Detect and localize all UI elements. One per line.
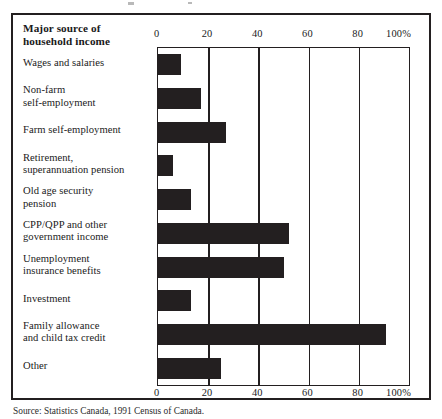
bar [158, 324, 386, 345]
x-tick-top-20: 20 [202, 28, 213, 39]
category-label-line: and child tax credit [23, 332, 157, 344]
scan-artifact-left [128, 2, 134, 5]
x-tick-bottom-80: 80 [352, 387, 363, 398]
category-label-line: Farm self-employment [23, 124, 157, 136]
figure-container: Major source of household income Wages a… [0, 0, 442, 419]
category-label-line: Old age security [23, 185, 157, 197]
category-label: Investment [23, 293, 157, 305]
x-tick-bottom-40: 40 [252, 387, 263, 398]
x-tick-bottom-60: 60 [302, 387, 313, 398]
category-label: Other [23, 360, 157, 372]
category-label-line: CPP/QPP and other [23, 219, 157, 231]
category-column-header-line-2: household income [23, 35, 153, 48]
category-label: Farm self-employment [23, 124, 157, 136]
x-tick-bottom-0: 0 [154, 387, 159, 398]
category-label-line: pension [23, 198, 157, 210]
bar [158, 54, 181, 75]
category-label-line: superannuation pension [23, 164, 157, 176]
category-label-line: Non-farm [23, 84, 157, 96]
category-label: Retirement,superannuation pension [23, 152, 157, 177]
category-label-line: Other [23, 360, 157, 372]
bar [158, 358, 221, 379]
scan-artifact-right [188, 2, 192, 4]
x-tick-top-60: 60 [302, 28, 313, 39]
bar [158, 189, 191, 210]
bar [158, 88, 201, 109]
x-tick-top-40: 40 [252, 28, 263, 39]
category-column-header-line-1: Major source of [23, 22, 153, 35]
source-note: Source: Statistics Canada, 1991 Census o… [13, 406, 204, 419]
category-label-line: insurance benefits [23, 265, 157, 277]
category-label-line: government income [23, 231, 157, 243]
category-label-line: Unemployment [23, 253, 157, 265]
category-label: Old age securitypension [23, 185, 157, 210]
category-label-line: self-employment [23, 97, 157, 109]
bar [158, 223, 289, 244]
bar [158, 290, 191, 311]
bar [158, 257, 284, 278]
x-tick-bottom-100pct: 100% [386, 387, 411, 398]
plot-area [157, 47, 410, 386]
category-label: CPP/QPP and othergovernment income [23, 219, 157, 244]
x-tick-top-0: 0 [154, 28, 159, 39]
x-tick-bottom-20: 20 [202, 387, 213, 398]
x-tick-top-80: 80 [352, 28, 363, 39]
category-label: Unemploymentinsurance benefits [23, 253, 157, 278]
category-label: Wages and salaries [23, 57, 157, 69]
bar [158, 155, 173, 176]
category-label-line: Investment [23, 293, 157, 305]
category-label-line: Retirement, [23, 152, 157, 164]
category-column-header: Major source of household income [23, 22, 153, 47]
x-tick-top-100pct: 100% [386, 28, 411, 39]
category-label: Family allowanceand child tax credit [23, 320, 157, 345]
category-label-line: Family allowance [23, 320, 157, 332]
category-label-line: Wages and salaries [23, 57, 157, 69]
category-label: Non-farmself-employment [23, 84, 157, 109]
bar [158, 122, 226, 143]
